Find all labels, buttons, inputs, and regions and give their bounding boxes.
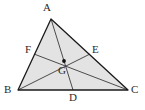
centroid-label-g: G: [58, 65, 66, 76]
midpoint-label-f: F: [25, 44, 31, 55]
geometry-figure: A B C D E F G: [0, 0, 145, 110]
vertex-label-b: B: [4, 84, 11, 95]
vertex-label-a: A: [43, 2, 51, 13]
midpoint-label-e: E: [92, 44, 99, 55]
vertex-label-c: C: [131, 84, 138, 95]
midpoint-label-d: D: [69, 92, 77, 103]
centroid-point-g: [62, 59, 66, 63]
